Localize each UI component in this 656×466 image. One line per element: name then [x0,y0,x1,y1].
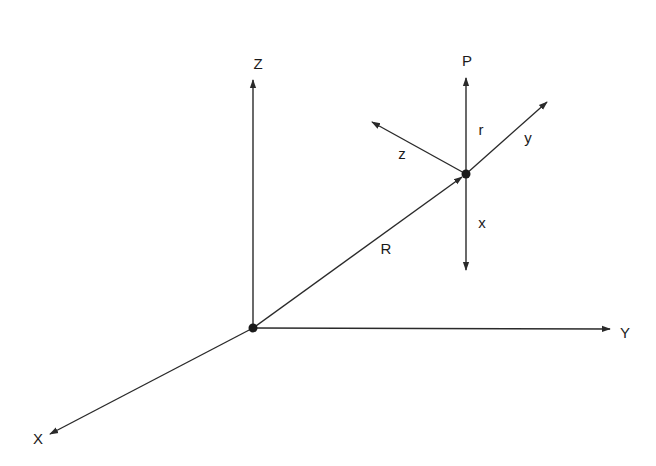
local-z-axis [372,122,466,174]
label-global-x: X [33,431,43,446]
label-position-vector-r: R [381,241,392,256]
global-x-axis [50,328,253,434]
label-local-r: r [479,122,484,137]
local-origin-dot [462,170,471,179]
local-y-axis [466,102,547,174]
global-origin-dot [249,324,258,333]
label-global-y: Y [620,325,630,340]
label-local-x: x [478,215,486,230]
label-local-p: P [462,53,472,68]
label-local-y: y [524,130,532,145]
label-global-z: Z [253,56,262,71]
diagram-canvas [0,0,656,466]
label-local-z: z [398,146,406,161]
global-y-axis [253,328,610,329]
position-vector-r [253,177,462,328]
